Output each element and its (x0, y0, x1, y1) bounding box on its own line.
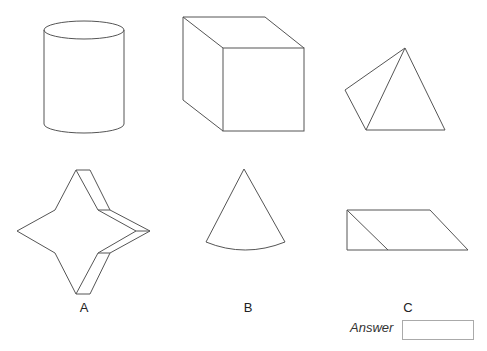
star-prism-shape (17, 170, 150, 294)
option-label-c: C (403, 300, 412, 315)
cylinder-shape (44, 21, 124, 133)
answer-label: Answer (350, 320, 393, 335)
shapes-figure (0, 0, 487, 351)
tetrahedron-shape (345, 48, 445, 130)
cone-shape (206, 169, 285, 250)
triangular-prism-shape (347, 210, 468, 250)
option-label-b: B (244, 300, 253, 315)
answer-input[interactable] (402, 320, 474, 340)
cube-shape (183, 17, 304, 131)
option-label-a: A (80, 300, 89, 315)
